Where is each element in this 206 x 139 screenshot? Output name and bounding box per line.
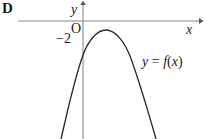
y-axis-arrowhead-icon xyxy=(80,1,86,5)
graph-figure: D y x O −2 y = f(x) xyxy=(0,0,206,139)
function-label: y = f(x) xyxy=(142,55,183,69)
origin-label: O xyxy=(71,22,81,36)
parabola-curve xyxy=(61,30,156,139)
x-axis xyxy=(18,18,204,24)
x-axis-label: x xyxy=(186,23,192,37)
coordinate-plot-svg xyxy=(0,0,206,139)
function-label-paren-close: ) xyxy=(178,54,183,69)
y-intercept-tick-label: −2 xyxy=(56,32,71,46)
function-label-equals: = xyxy=(148,54,163,69)
panel-label-d: D xyxy=(2,1,13,16)
y-axis-label: y xyxy=(71,3,77,17)
x-axis-arrowhead-icon xyxy=(199,18,204,24)
